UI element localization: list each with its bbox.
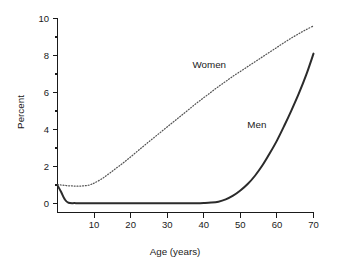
x-tick-label: 70: [308, 219, 319, 230]
x-tick-label: 10: [89, 219, 100, 230]
x-tick-label: 30: [162, 219, 173, 230]
x-tick-label: 40: [198, 219, 209, 230]
y-tick-label: 2: [44, 161, 49, 172]
y-axis-title: Percent: [15, 95, 26, 129]
series-label-men: Men: [247, 119, 266, 130]
y-tick-label: 6: [44, 87, 49, 98]
x-axis-title: Age (years): [150, 246, 201, 257]
series-annotations: WomenMen: [192, 59, 266, 130]
x-axis-tick-labels: 10203040506070: [89, 219, 319, 230]
x-tick-label: 20: [125, 219, 136, 230]
y-tick-label: 0: [44, 198, 49, 209]
series-line-men: [58, 54, 314, 204]
chart-plot-area: 0246810 10203040506070 WomenMen Age (yea…: [0, 0, 338, 268]
series-line-women: [58, 26, 314, 186]
x-axis-ticks: [94, 213, 313, 218]
series-label-women: Women: [192, 59, 226, 70]
y-tick-label: 10: [38, 13, 49, 24]
y-tick-label: 4: [44, 124, 49, 135]
y-tick-label: 8: [44, 50, 49, 61]
y-axis-ticks: [53, 19, 58, 204]
chart-figure: 0246810 10203040506070 WomenMen Age (yea…: [0, 0, 338, 268]
axes-group: [58, 19, 314, 213]
x-tick-label: 60: [272, 219, 283, 230]
x-tick-label: 50: [235, 219, 246, 230]
data-series-group: [58, 26, 314, 203]
y-axis-tick-labels: 0246810: [38, 13, 49, 209]
